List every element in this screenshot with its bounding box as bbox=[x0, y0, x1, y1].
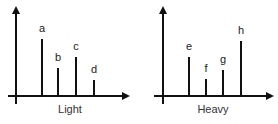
y-axis bbox=[162, 12, 164, 104]
bar-label-e: e bbox=[183, 40, 195, 52]
bar-label-d: d bbox=[88, 63, 100, 75]
bar-g bbox=[222, 70, 224, 96]
bar-label-h: h bbox=[235, 24, 247, 36]
x-axis bbox=[8, 95, 122, 97]
bar-label-f: f bbox=[200, 62, 212, 74]
bar-h bbox=[240, 41, 242, 96]
bar-c bbox=[75, 57, 77, 96]
heavy-chart: e f g h Heavy bbox=[139, 0, 278, 124]
x-axis-arrow-icon bbox=[122, 92, 130, 100]
bar-b bbox=[57, 68, 59, 96]
bar-label-a: a bbox=[36, 22, 48, 34]
bar-label-b: b bbox=[52, 51, 64, 63]
bar-label-c: c bbox=[70, 40, 82, 52]
y-axis bbox=[15, 12, 17, 104]
light-chart: a b c d Light bbox=[0, 0, 139, 124]
chart-caption: Heavy bbox=[191, 103, 235, 115]
bar-d bbox=[93, 80, 95, 96]
bar-f bbox=[205, 79, 207, 96]
bar-a bbox=[41, 39, 43, 96]
x-axis bbox=[154, 95, 266, 97]
bar-label-g: g bbox=[217, 53, 229, 65]
chart-caption: Light bbox=[50, 103, 90, 115]
bar-e bbox=[188, 57, 190, 96]
x-axis-arrow-icon bbox=[266, 92, 274, 100]
